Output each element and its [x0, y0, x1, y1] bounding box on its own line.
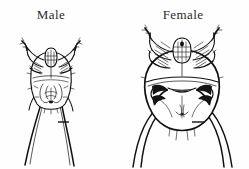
male-trailing-legs: [25, 104, 74, 166]
illustration-plate: Male Female: [0, 0, 249, 169]
male-mite-figure: [20, 38, 82, 166]
female-mite-figure: [133, 25, 232, 167]
female-capitulum: [173, 38, 191, 63]
male-capitulum: [45, 48, 57, 67]
mite-illustrations: [0, 0, 249, 169]
